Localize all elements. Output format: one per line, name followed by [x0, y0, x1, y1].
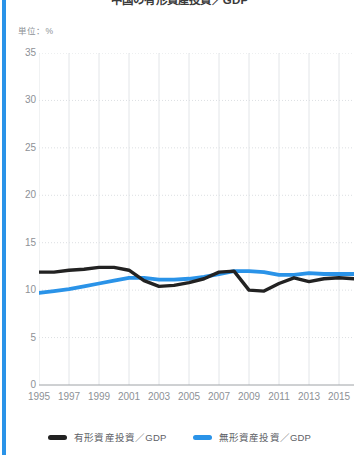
y-axis-tick-label: 30: [2, 94, 36, 106]
x-axis-tick-label: 2011: [268, 391, 290, 402]
y-axis-tick-label: 20: [2, 189, 36, 201]
y-axis-tick-label: 10: [2, 284, 36, 296]
y-axis-tick-label: 15: [2, 237, 36, 249]
legend-swatch-tangible: [48, 435, 67, 440]
legend-swatch-intangible: [193, 435, 212, 440]
y-axis-tick-label: 0: [2, 379, 36, 391]
x-axis-tick-label: 2009: [238, 391, 260, 402]
x-axis-tick-label: 2005: [178, 391, 200, 402]
x-axis-tick-label: 1997: [58, 391, 80, 402]
y-axis-tick-label: 25: [2, 142, 36, 154]
y-axis-tick-label: 5: [2, 332, 36, 344]
chart-canvas: [39, 53, 354, 387]
legend-item[interactable]: 無形資産投資／GDP: [193, 430, 312, 444]
legend-item[interactable]: 有形資産投資／GDP: [48, 430, 167, 444]
chart-title: 中国の有形資産投資／GDP: [0, 0, 359, 6]
x-axis: 1995199719992001200320052007200920112013…: [39, 391, 354, 407]
legend-item-label: 有形資産投資／GDP: [74, 430, 167, 444]
x-axis-tick-label: 2015: [328, 391, 350, 402]
x-axis-tick-label: 2003: [148, 391, 170, 402]
x-axis-tick-label: 2007: [208, 391, 230, 402]
x-axis-tick-label: 2013: [298, 391, 320, 402]
x-axis-tick-label: 1999: [88, 391, 110, 402]
legend-item-label: 無形資産投資／GDP: [219, 430, 312, 444]
plot-area: [39, 53, 354, 385]
x-axis-tick-label: 2001: [118, 391, 140, 402]
y-axis: 05101520253035: [0, 53, 36, 385]
chart-page: 中国の有形資産投資／GDP 単位：% 05101520253035 199519…: [0, 0, 359, 455]
chart-legend: 有形資産投資／GDP無形資産投資／GDP: [0, 430, 359, 444]
y-axis-tick-label: 35: [2, 47, 36, 59]
x-axis-tick-label: 1995: [28, 391, 50, 402]
unit-label: 単位：%: [18, 24, 53, 36]
